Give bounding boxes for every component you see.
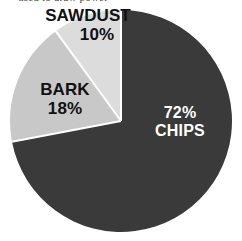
- pie-label-chips-name: CHIPS: [143, 122, 217, 140]
- pie-label-chips: 72% CHIPS: [143, 104, 217, 140]
- pie-label-sawdust-name: SAWDUST: [45, 6, 131, 25]
- pie-label-bark-value: 18%: [27, 99, 103, 118]
- pie-label-bark: BARK 18%: [27, 80, 103, 118]
- pie-chart-figure: used to draw power SAWDUST 10% BARK 18% …: [0, 0, 242, 241]
- pie-label-sawdust-value: 10%: [54, 25, 140, 44]
- pie-label-sawdust: SAWDUST 10%: [36, 6, 140, 44]
- pie-label-bark-name: BARK: [40, 80, 90, 99]
- pie-label-chips-value: 72%: [164, 104, 197, 121]
